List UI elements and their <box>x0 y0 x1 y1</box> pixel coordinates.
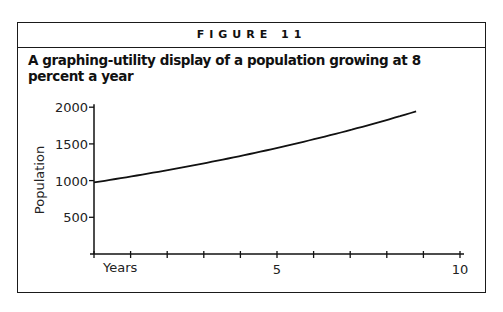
x-axis-label: Years <box>102 260 138 275</box>
y-tick-label: 1500 <box>55 137 88 152</box>
y-tick-label: 1000 <box>55 174 88 189</box>
x-tick-label: 10 <box>452 262 469 277</box>
y-axis-label: Population <box>32 146 47 214</box>
y-tick-label: 2000 <box>55 100 88 115</box>
chart-plot: 510500100015002000 Population Years <box>0 0 503 312</box>
x-tick-label: 5 <box>273 262 281 277</box>
y-tick-label: 500 <box>63 210 88 225</box>
chart-axes: 510500100015002000 <box>55 100 468 277</box>
population-curve <box>94 111 416 182</box>
